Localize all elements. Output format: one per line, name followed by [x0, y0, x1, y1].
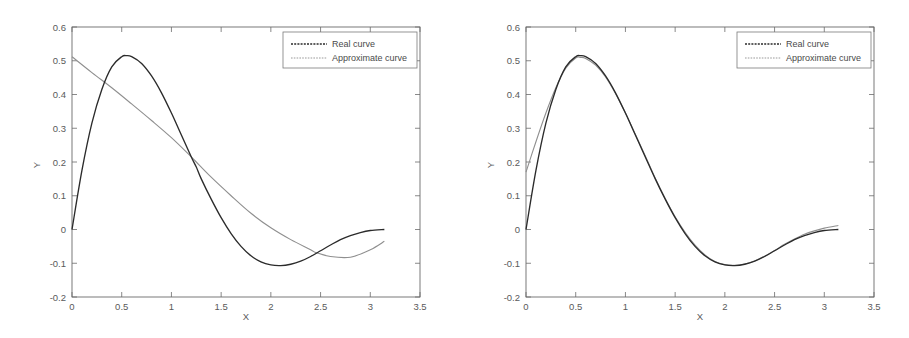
- y-tick-label: -0.2: [504, 292, 520, 303]
- y-tick-label: 0.3: [53, 123, 66, 134]
- figure-container: 00.511.522.533.5 -0.2-0.100.10.20.30.40.…: [0, 0, 909, 338]
- y-tick-label: 0: [61, 224, 66, 235]
- x-tick-label: 3.5: [867, 301, 880, 312]
- x-tick-label: 2: [268, 301, 273, 312]
- legend-label-real-curve: Real curve: [332, 39, 375, 49]
- y-tick-label: 0.1: [53, 190, 66, 201]
- legend-label-approximate-curve: Approximate curve: [332, 53, 407, 63]
- y-tick-label: -0.1: [50, 258, 66, 269]
- x-axis-title-left: X: [243, 311, 250, 322]
- y-tick-label: 0.4: [507, 89, 520, 100]
- x-tick-label: 0: [523, 301, 528, 312]
- x-tick-label: 3: [368, 301, 373, 312]
- x-axis-title-right: X: [697, 311, 704, 322]
- y-axis-title-right: Y: [485, 161, 496, 168]
- chart-panel-right: 00.511.522.533.5 -0.2-0.100.10.20.30.40.…: [454, 0, 908, 338]
- x-tick-label: 0.5: [569, 301, 582, 312]
- y-tick-label: 0.4: [53, 89, 66, 100]
- x-tick-label: 2.5: [314, 301, 327, 312]
- chart-panel-left: 00.511.522.533.5 -0.2-0.100.10.20.30.40.…: [0, 0, 454, 338]
- x-tick-label: 1: [169, 301, 174, 312]
- legend-label-approximate-curve: Approximate curve: [786, 53, 861, 63]
- y-tick-labels-right: -0.2-0.100.10.20.30.40.50.6: [504, 22, 520, 303]
- y-tick-label: 0.6: [507, 22, 520, 33]
- y-tick-label: 0.2: [507, 157, 520, 168]
- y-tick-label: 0: [515, 224, 520, 235]
- x-tick-label: 3: [822, 301, 827, 312]
- x-tick-label: 1.5: [669, 301, 682, 312]
- y-tick-label: 0.2: [53, 157, 66, 168]
- x-tick-label: 2.5: [768, 301, 781, 312]
- y-tick-label: 0.3: [507, 123, 520, 134]
- plot-svg-right: 00.511.522.533.5 -0.2-0.100.10.20.30.40.…: [454, 0, 908, 338]
- x-tick-label: 3.5: [413, 301, 426, 312]
- x-tick-label: 0: [69, 301, 74, 312]
- x-tick-label: 0.5: [115, 301, 128, 312]
- x-tick-label: 1: [623, 301, 628, 312]
- legend-left: Real curve Approximate curve: [283, 32, 417, 68]
- y-tick-label: 0.6: [53, 22, 66, 33]
- y-tick-label: 0.1: [507, 190, 520, 201]
- x-tick-label: 1.5: [215, 301, 228, 312]
- legend-right: Real curve Approximate curve: [737, 32, 871, 68]
- y-axis-title-left: Y: [31, 161, 42, 168]
- plot-svg-left: 00.511.522.533.5 -0.2-0.100.10.20.30.40.…: [0, 0, 454, 338]
- y-tick-label: -0.1: [504, 258, 520, 269]
- y-tick-label: 0.5: [53, 55, 66, 66]
- x-tick-label: 2: [722, 301, 727, 312]
- y-tick-label: 0.5: [507, 55, 520, 66]
- legend-label-real-curve: Real curve: [786, 39, 829, 49]
- y-tick-label: -0.2: [50, 292, 66, 303]
- y-tick-labels-left: -0.2-0.100.10.20.30.40.50.6: [50, 22, 66, 303]
